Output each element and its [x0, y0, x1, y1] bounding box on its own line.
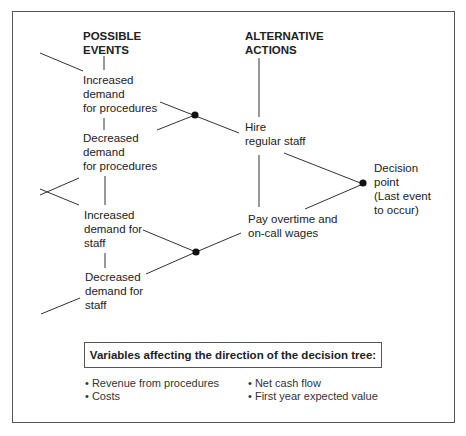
branch-line	[146, 252, 196, 274]
alternative-actions-header: ALTERNATIVE ACTIONS	[245, 29, 324, 57]
event-increased-demand-staff: Increased demand for staff	[84, 208, 142, 250]
variable-item: • Revenue from procedures	[85, 377, 219, 390]
variable-item: • Net cash flow	[248, 377, 378, 390]
chance-node	[192, 248, 199, 255]
decision-tree-connectors	[0, 0, 466, 436]
branch-line	[305, 184, 363, 209]
variables-title: Variables affecting the direction of the…	[90, 349, 376, 361]
branch-line	[284, 153, 363, 184]
branch-line	[40, 189, 79, 205]
branch-line	[40, 178, 79, 195]
event-increased-demand-procedures: Increased demand for procedures	[83, 73, 157, 115]
action-pay-overtime: Pay overtime and on-call wages	[248, 212, 338, 240]
branch-line	[157, 115, 195, 130]
branch-line	[196, 233, 241, 252]
variables-list-left: • Revenue from procedures • Costs	[85, 377, 219, 403]
possible-events-header: POSSIBLE EVENTS	[83, 29, 141, 57]
variables-box: Variables affecting the direction of the…	[84, 342, 382, 368]
decision-point-label: Decision point (Last event to occur)	[374, 161, 431, 217]
variable-item: • First year expected value	[248, 390, 378, 403]
decision-node	[359, 179, 366, 186]
branch-line	[40, 53, 83, 71]
variable-item: • Costs	[85, 390, 219, 403]
branch-line	[41, 298, 80, 314]
variables-list-right: • Net cash flow • First year expected va…	[248, 377, 378, 403]
branch-line	[160, 102, 239, 133]
chance-node	[191, 111, 198, 118]
event-decreased-demand-staff: Decreased demand for staff	[85, 270, 143, 312]
action-hire-regular-staff: Hire regular staff	[245, 120, 306, 148]
event-decreased-demand-procedures: Decreased demand for procedures	[83, 131, 157, 173]
branch-line	[143, 230, 196, 252]
